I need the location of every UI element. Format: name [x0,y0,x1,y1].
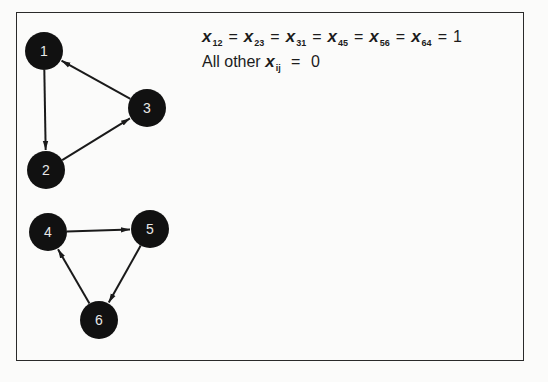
one-value: 1 [453,28,462,45]
variable-x-23: x23 [244,27,264,46]
node-label-1: 1 [40,43,48,59]
variable-x-64: x64 [411,27,431,46]
equality-line: x12=x23=x31=x45=x56=x64=1 [202,28,462,52]
node-label-5: 5 [146,221,154,237]
all-other-label: All other [202,53,261,70]
variable-x-31: x31 [286,27,306,46]
edge-4-5 [67,230,130,232]
variable-x-56: x56 [369,27,389,46]
edge-5-6 [109,246,141,303]
edge-1-2 [44,70,45,150]
variable-x: xij [265,52,280,71]
edge-2-3 [62,118,130,160]
node-label-6: 6 [95,312,103,328]
node-label-2: 2 [42,162,50,178]
node-label-3: 3 [143,100,151,116]
node-label-4: 4 [44,224,52,240]
variable-x-12: x12 [202,27,222,46]
edge-3-1 [61,61,130,99]
other-vars-line: All other xij = 0 [202,53,462,77]
solution-text: x12=x23=x31=x45=x56=x64=1 All other xij … [202,28,462,77]
zero-value: 0 [311,53,320,70]
edge-6-4 [58,249,89,303]
variable-x-45: x45 [327,27,347,46]
